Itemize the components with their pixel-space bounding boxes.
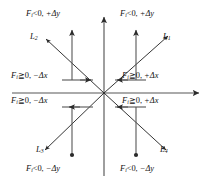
delta-term: +Δx <box>144 96 158 105</box>
figure-canvas: Fi<0, +Δy Fi<0, +Δy Fi≧0, −Δx Fi≧0, +Δx … <box>0 0 209 187</box>
increment-arrows-q3 <box>62 107 93 155</box>
increment-arrows-q2 <box>62 30 93 80</box>
condition-label-mid-right-upper: Fi≧0, +Δx <box>122 72 158 81</box>
delta-term: −Δy <box>46 164 60 173</box>
delta-term: +Δx <box>144 71 158 80</box>
condition-label-mid-left-upper: Fi≧0, −Δx <box>11 72 47 81</box>
line-label-L4: L4 <box>160 145 168 155</box>
delta-term: −Δy <box>140 164 154 173</box>
line-label-L1: L1 <box>163 32 171 42</box>
line-L2 <box>46 39 104 93</box>
condition-label-bottom-right: Fi<0, −Δy <box>120 165 154 174</box>
force-relation: ≧0 <box>129 96 140 105</box>
force-relation: ≧0 <box>18 71 29 80</box>
delta-term: −Δx <box>33 96 47 105</box>
force-relation: ≧0 <box>129 71 140 80</box>
line-index: 2 <box>35 35 38 41</box>
condition-label-mid-right-lower: Fi≧0, +Δx <box>122 97 158 106</box>
force-relation: ≧0 <box>18 96 29 105</box>
condition-label-top-right: Fi<0, +Δy <box>120 10 154 19</box>
force-relation: <0 <box>33 9 42 18</box>
delta-term: −Δx <box>33 71 47 80</box>
diagram-svg <box>0 0 209 187</box>
line-index: 3 <box>41 148 44 154</box>
increment-arrows-q4 <box>115 107 146 155</box>
condition-label-bottom-left: Fi<0, −Δy <box>26 165 60 174</box>
line-label-L3: L3 <box>36 145 44 155</box>
force-relation: <0 <box>127 164 136 173</box>
delta-term: +Δy <box>140 9 154 18</box>
delta-term: +Δy <box>46 9 60 18</box>
force-relation: <0 <box>127 9 136 18</box>
force-relation: <0 <box>33 164 42 173</box>
line-L3 <box>45 93 104 150</box>
condition-label-mid-left-lower: Fi≧0, −Δx <box>11 97 47 106</box>
condition-label-top-left: Fi<0, +Δy <box>26 10 60 19</box>
line-index: 1 <box>168 35 171 41</box>
line-label-L2: L2 <box>30 32 38 42</box>
line-index: 4 <box>165 148 168 154</box>
